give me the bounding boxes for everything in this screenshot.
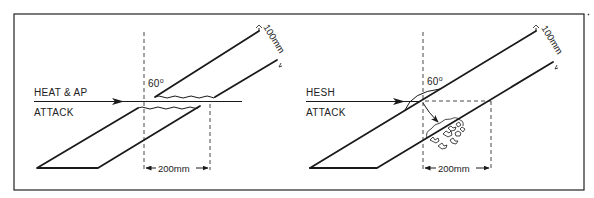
panel-heat-ap: 100mm 60o HEAT & AP ATTACK 200mm (34, 22, 287, 173)
attack-label-line1: HESH (306, 87, 335, 98)
angle-label: 60o (148, 77, 164, 89)
plate-lower-face (215, 60, 277, 97)
thickness-label: 100mm (261, 22, 287, 55)
penetration-cut-lower (138, 106, 200, 109)
plate-upper-face (155, 31, 259, 97)
attack-label-line2: ATTACK (34, 107, 74, 118)
angle-label: 60o (427, 75, 443, 87)
thickness-label: 100mm (539, 23, 565, 56)
attack-label-line1: HEAT & AP (34, 87, 87, 98)
penetration-cut-upper (155, 96, 215, 98)
path-length-label: 200mm (158, 163, 190, 174)
armour-diagram: 100mm 60o HEAT & AP ATTACK 200mm (0, 0, 594, 198)
attack-label-line2: ATTACK (306, 107, 346, 118)
spall-fragments-icon (427, 118, 466, 149)
thickness-arrow-icon (279, 63, 282, 67)
thickness-arrow-icon (555, 65, 558, 69)
panel-hesh: 100mm 60o HESH ATTACK 200mm (306, 23, 565, 173)
corner-mark (588, 14, 589, 15)
shockwave-arrow-icon (423, 103, 438, 122)
path-length-label: 200mm (438, 163, 470, 174)
